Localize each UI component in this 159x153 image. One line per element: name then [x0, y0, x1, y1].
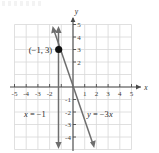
x-tick-label: 3	[106, 90, 110, 98]
y-axis-label: y	[74, 7, 79, 16]
point-marker	[55, 46, 62, 53]
y-tick-label: 2	[77, 59, 81, 67]
y-tick-label: -2	[65, 109, 71, 117]
x-tick-label: 4	[118, 90, 122, 98]
x-tick-label: -3	[35, 90, 41, 98]
vertical-line-equation-label: x = −1	[23, 109, 46, 119]
vertical-line-up-arrow	[55, 26, 61, 33]
point-coordinate-label: (−1, 3)	[29, 45, 52, 55]
x-tick-label: -5	[12, 90, 18, 98]
x-tick-label: -4	[23, 90, 29, 98]
x-axis-label: x	[143, 83, 148, 92]
diagonal-eq-variable2: x	[108, 109, 113, 119]
x-tick-label: 2	[95, 90, 99, 98]
diagonal-line-down-arrow	[90, 140, 96, 148]
y-tick-label: -3	[65, 121, 71, 129]
diagonal-line-equation-label: y = −3x	[86, 109, 113, 119]
vertical-line-down-arrow	[55, 142, 61, 149]
y-axis-arrow	[71, 17, 76, 22]
x-axis-arrow	[136, 85, 141, 90]
coordinate-plane-graph: -5 -4 -3 -2 1 2 3 4 5 5 4 3 2 -1 -2 -3 -…	[0, 0, 159, 153]
x-tick-label: -2	[47, 90, 53, 98]
y-tick-label: -1	[65, 96, 71, 104]
y-tick-label: 4	[77, 34, 81, 42]
y-tick-label: -4	[65, 134, 71, 142]
vertical-eq-rest: = −1	[28, 109, 46, 119]
x-tick-label: 5	[130, 90, 134, 98]
y-tick-label: 3	[77, 46, 81, 54]
figure-container: -5 -4 -3 -2 1 2 3 4 5 5 4 3 2 -1 -2 -3 -…	[0, 0, 159, 153]
x-tick-label: 1	[83, 90, 87, 98]
diagonal-eq-mid: = −3	[91, 109, 109, 119]
y-tick-label: 5	[77, 21, 81, 29]
